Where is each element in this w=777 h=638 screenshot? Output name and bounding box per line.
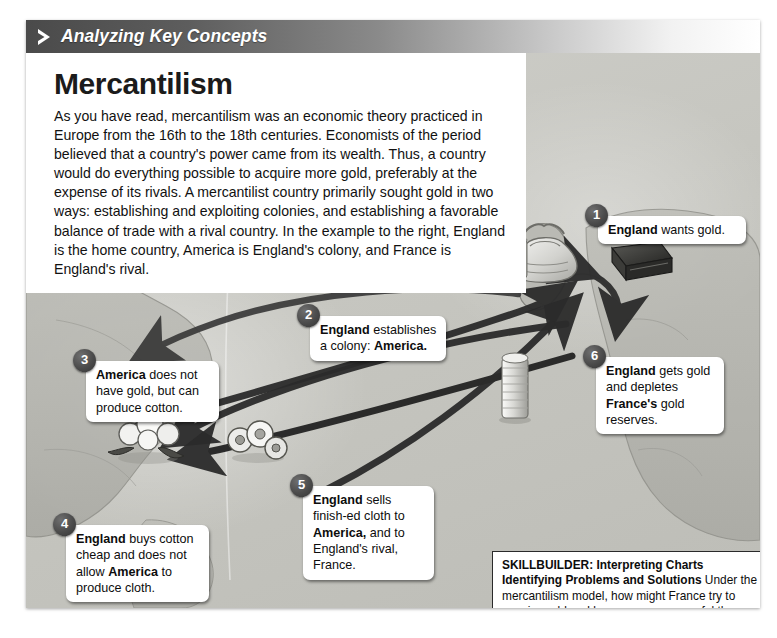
intro-paragraph: As you have read, mercantilism was an ec… bbox=[54, 107, 508, 279]
feature-panel: Analyzing Key Concepts Mercantilism As y… bbox=[26, 20, 760, 608]
callout-text-5: England sells finish-ed cloth to America… bbox=[313, 493, 405, 572]
callout-text-6: England gets gold and depletes France's … bbox=[606, 364, 710, 427]
callout-badge-6: 6 bbox=[583, 345, 606, 368]
callout-england-wants-gold: 1 England wants gold. bbox=[598, 216, 746, 244]
callout-badge-5: 5 bbox=[290, 474, 313, 497]
intro-panel: Mercantilism As you have read, mercantil… bbox=[26, 53, 526, 293]
section-header-title: Analyzing Key Concepts bbox=[61, 26, 267, 47]
section-header-bar: Analyzing Key Concepts bbox=[26, 20, 760, 53]
callout-badge-1: 1 bbox=[585, 204, 608, 227]
callout-badge-2: 2 bbox=[297, 304, 320, 327]
skillbuilder-subheading: Identifying Problems and Solutions bbox=[502, 573, 702, 587]
textbook-page: Analyzing Key Concepts Mercantilism As y… bbox=[0, 0, 777, 638]
callout-text-3: America does not have gold, but can prod… bbox=[96, 368, 199, 415]
callout-depletes-france-gold: 6 England gets gold and depletes France'… bbox=[596, 357, 724, 434]
cloth-bolt-icon bbox=[612, 242, 672, 280]
callout-america-no-gold: 3 America does not have gold, but can pr… bbox=[86, 361, 219, 422]
callout-sells-cloth: 5 England sells finish-ed cloth to Ameri… bbox=[303, 486, 434, 580]
callout-text-4: England buys cotton cheap and does not a… bbox=[76, 532, 194, 595]
callout-badge-4: 4 bbox=[53, 513, 76, 536]
gold-coin-stack-center-icon bbox=[499, 353, 531, 424]
callout-text-1: England wants gold. bbox=[608, 223, 725, 237]
callout-text-2: England establishes a colony: America. bbox=[320, 323, 436, 353]
skillbuilder-box: SKILLBUILDER: Interpreting Charts Identi… bbox=[492, 551, 760, 608]
callout-establishes-colony: 2 England establishes a colony: America. bbox=[310, 316, 446, 361]
callout-badge-3: 3 bbox=[73, 349, 96, 372]
chevron-right-icon bbox=[36, 28, 52, 46]
callout-buys-cotton-cheap: 4 England buys cotton cheap and does not… bbox=[66, 525, 209, 602]
skillbuilder-heading: SKILLBUILDER: Interpreting Charts bbox=[502, 558, 760, 573]
page-title: Mercantilism bbox=[54, 67, 508, 101]
cloth-rolls-icon bbox=[228, 421, 287, 463]
